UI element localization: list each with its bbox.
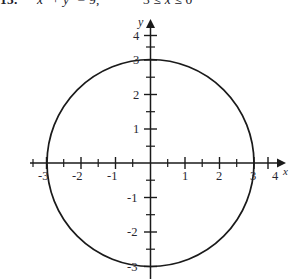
y-tick-label-2: 2 (133, 89, 139, 102)
coordinate-plane (0, 0, 301, 279)
y-tick-label-3: 3 (133, 54, 139, 67)
y-axis (146, 19, 155, 279)
x-tick-label-2: 2 (216, 170, 222, 183)
y-tick-label--1: -1 (127, 192, 137, 205)
x-tick-label--2: -2 (72, 170, 82, 183)
x-axis-label: x (283, 165, 288, 178)
y-axis-label: y (138, 16, 143, 29)
x-tick-label-4: 4 (272, 170, 278, 183)
y-tick-label-1: 1 (133, 123, 139, 136)
graph-figure: 15. x2 + y2 = 9, −3 ≤ x ≤ 0 (0, 0, 301, 279)
x-tick-label--3: -3 (38, 170, 48, 183)
y-tick-label--3: -3 (127, 261, 137, 274)
y-tick-label--2: -2 (127, 226, 137, 239)
x-tick-label--1: -1 (107, 170, 117, 183)
x-tick-label-3: 3 (250, 170, 256, 183)
y-axis-arrowhead (146, 19, 155, 28)
x-tick-label-1: 1 (182, 170, 188, 183)
x-axis (30, 159, 286, 168)
y-tick-label-4: 4 (133, 30, 139, 43)
